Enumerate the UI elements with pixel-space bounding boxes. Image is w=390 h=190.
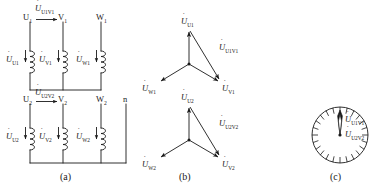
- caption-a: (a): [60, 172, 71, 182]
- line-voltage-label-u2v2: ˙UU2V2: [35, 88, 54, 99]
- phasor-label-w1: ˙UW1: [142, 84, 156, 95]
- clock-label-u2v2: ˙UU2V2: [345, 130, 364, 141]
- clock-center: [338, 133, 341, 136]
- terminal-label-w2: W2: [96, 95, 107, 106]
- figure-canvas: U1 V1 W1 ˙UU1V1 ˙UU1 ˙UV1 ˙UW1 U2 V2 W2 …: [0, 0, 390, 190]
- phasor-v2: [189, 140, 218, 157]
- phasor-label-u1: ˙UU1: [181, 17, 194, 28]
- coil-label-u2: ˙UU2: [6, 132, 19, 143]
- phasor-label-v2: ˙UV2: [222, 160, 235, 171]
- coil-u2: [30, 128, 35, 150]
- phasor-label-w2: ˙UW2: [142, 160, 156, 171]
- coil-label-w2: ˙UW2: [76, 132, 90, 143]
- coil-v1: [63, 51, 68, 73]
- phasor-label-line-u2v2: ˙UU2V2: [219, 119, 238, 130]
- terminal-label-u1: U1: [23, 13, 32, 24]
- coil-u1: [30, 51, 35, 73]
- coil-v2: [63, 128, 68, 150]
- phasor-line-u2v2: [190, 107, 219, 155]
- line-voltage-label-u1v1: ˙UU1V1: [35, 4, 54, 15]
- coil-w2: [101, 128, 106, 150]
- terminal-label-u2: U2: [23, 95, 32, 106]
- terminal-label-v1: V1: [58, 13, 67, 24]
- terminal-label-w1: W1: [96, 13, 107, 24]
- caption-b: (b): [179, 172, 191, 182]
- panel-a-arrows: [26, 20, 97, 140]
- phasor-w1: [161, 64, 189, 81]
- panel-b-lower-phasor: [161, 107, 219, 157]
- phasor-v1: [189, 64, 218, 81]
- coil-label-u1: ˙UU1: [6, 55, 19, 66]
- phasor-label-u2: ˙UU2: [181, 93, 194, 104]
- coil-label-v2: ˙UV2: [39, 132, 52, 143]
- panel-b-upper-phasor: [161, 31, 219, 81]
- coil-label-w1: ˙UW1: [76, 55, 90, 66]
- caption-c: (c): [330, 172, 341, 182]
- terminal-label-neutral: n: [123, 95, 127, 104]
- coil-label-v1: ˙UV1: [39, 55, 52, 66]
- coil-w1: [101, 51, 106, 73]
- terminal-label-v2: V2: [58, 95, 67, 106]
- phasor-w2: [161, 140, 189, 157]
- phasor-label-v1: ˙UV1: [222, 84, 235, 95]
- phasor-label-line-u1v1: ˙UU1V1: [219, 43, 238, 54]
- phasor-line-u1v1: [190, 31, 219, 79]
